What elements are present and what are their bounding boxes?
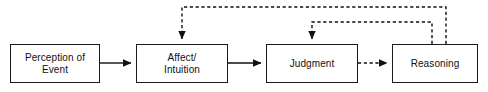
- node-judgment: Judgment: [266, 44, 358, 83]
- node-perception-of-event: Perception of Event: [10, 44, 100, 83]
- edge-reasoning-to-judgment-feedback: [312, 22, 432, 44]
- node-affect-intuition: Affect/ Intuition: [136, 44, 228, 83]
- node-reasoning: Reasoning: [392, 44, 478, 83]
- node-perception-of-event-label: Perception of Event: [23, 52, 87, 76]
- node-affect-intuition-label: Affect/ Intuition: [162, 52, 202, 76]
- node-judgment-label: Judgment: [288, 58, 337, 70]
- node-reasoning-label: Reasoning: [409, 58, 462, 70]
- flowchart-diagram: Perception of Event Affect/ Intuition Ju…: [0, 0, 488, 92]
- edge-reasoning-to-affect-feedback: [182, 7, 446, 44]
